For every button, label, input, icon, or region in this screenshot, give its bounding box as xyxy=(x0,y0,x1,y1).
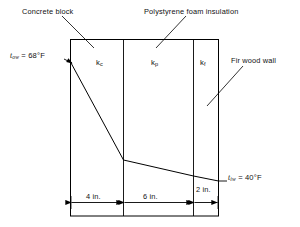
dimension-label-polystyrene: 6 in. xyxy=(143,192,158,201)
inside-temp-value: 40 xyxy=(245,173,254,182)
conductivity-label-concrete: kc xyxy=(96,58,103,69)
outside-temp-pointer xyxy=(64,58,73,63)
outside-temp-equals: = xyxy=(21,51,26,60)
callout-label-polystyrene-foam: Polystyrene foam insulation xyxy=(144,7,238,16)
inside-wall-temperature-label: tiw = 40°F xyxy=(228,173,262,184)
layer-dividers xyxy=(124,40,194,217)
outside-temp-subscript: ow xyxy=(12,54,19,60)
outside-wall-temperature-label: tow = 68°F xyxy=(10,51,45,62)
inside-temp-subscript: iw xyxy=(230,176,236,182)
dimension-label-fir: 2 in. xyxy=(196,185,211,194)
leader-line-polystyrene xyxy=(156,16,186,48)
temperature-profile-polyline xyxy=(71,62,219,181)
conductivity-label-polystyrene: kp xyxy=(151,58,158,69)
leader-line-fir xyxy=(207,66,243,106)
outside-temp-value: 68 xyxy=(28,51,37,60)
outside-temp-unit: °F xyxy=(37,51,45,60)
callout-label-concrete-block: Concrete block xyxy=(22,7,73,16)
callout-label-fir-wood-wall: Fir wood wall xyxy=(231,56,276,65)
leader-line-concrete xyxy=(62,16,94,48)
conductivity-subscript-concrete: c xyxy=(100,61,103,67)
temperature-profile-line xyxy=(71,62,219,181)
conductivity-label-fir: kf xyxy=(200,58,206,69)
inside-temp-equals: = xyxy=(238,173,243,182)
dimension-label-concrete: 4 in. xyxy=(86,192,101,201)
conductivity-subscript-polystyrene: p xyxy=(155,61,158,67)
inside-temp-unit: °F xyxy=(254,173,262,182)
pointer-arrow-outside-temp xyxy=(66,58,72,63)
conductivity-subscript-fir: f xyxy=(204,61,206,67)
composite-wall-diagram: Concrete block Polystyrene foam insulati… xyxy=(0,0,300,227)
